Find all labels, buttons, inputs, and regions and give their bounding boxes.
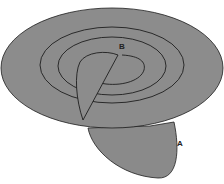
label-b: B (119, 43, 125, 51)
diagram-canvas (0, 0, 224, 184)
label-a: A (177, 140, 183, 148)
lobe-a (88, 122, 177, 178)
outer-disc (1, 8, 223, 128)
